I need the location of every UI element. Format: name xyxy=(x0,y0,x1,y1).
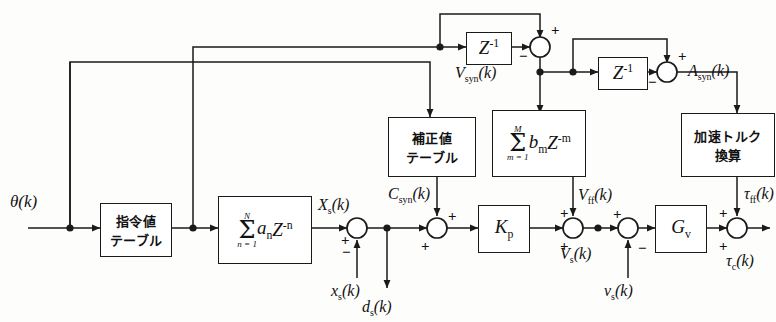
fir-b-z-exponent: -m xyxy=(558,132,571,145)
signal-label-vff: Vff(k) xyxy=(578,186,612,206)
delay-right-base: Z xyxy=(613,63,624,84)
sign-sum-asyn-plus: + xyxy=(678,48,687,65)
block-fir-a[interactable]: N Σ n = 1 an Z-n xyxy=(218,196,312,264)
sum-junction-asyn xyxy=(657,62,677,82)
fir-a-z-base: Z xyxy=(272,219,283,240)
sign-sum-tff-plus-top: + xyxy=(719,205,728,222)
ds-out-base: d xyxy=(362,298,370,315)
block-delay-right[interactable]: Z-1 xyxy=(598,57,648,90)
delay-left-base: Z xyxy=(479,38,490,59)
fir-a-expression: N Σ n = 1 an Z-n xyxy=(237,212,292,249)
signal-label-theta: θ(k) xyxy=(10,192,37,212)
xs-out-arg: (k) xyxy=(332,196,350,213)
tc-arg: (k) xyxy=(736,252,754,269)
signal-label-tc: τc(k) xyxy=(726,252,754,272)
fir-a-coefficient: an xyxy=(257,217,272,243)
kp-sub: p xyxy=(507,228,513,241)
fir-b-coefficient-base: b xyxy=(529,131,539,152)
signal-label-xs-out: Xs(k) xyxy=(318,196,349,216)
gv-base: G xyxy=(671,216,685,237)
fir-a-sum-lower: n = 1 xyxy=(237,240,257,249)
vs-fb-arg: (k) xyxy=(615,282,633,299)
signal-label-vs-feedback: vs(k) xyxy=(604,282,633,302)
signal-label-xs-feedback: xs(k) xyxy=(331,282,360,302)
command-table-line2: テーブル xyxy=(110,230,163,249)
gv-expression: Gv xyxy=(671,216,691,242)
sign-sum-vff-plus-bot: + xyxy=(560,238,569,255)
sign-sum-xs-minus: − xyxy=(342,244,351,261)
sign-sum-vsyn-minus: − xyxy=(519,48,528,65)
fir-a-coefficient-base: a xyxy=(257,217,267,238)
fir-b-z-base: Z xyxy=(547,133,558,154)
sign-sum-vs-minus: − xyxy=(638,240,647,257)
block-kp-gain[interactable]: Kp xyxy=(478,205,530,253)
asyn-base: A xyxy=(688,62,698,79)
accel-torque-line2: 換算 xyxy=(715,145,742,164)
theta-arg: (k) xyxy=(18,192,37,211)
vff-arg: (k) xyxy=(594,186,612,203)
sign-sum-vsyn-plus: + xyxy=(551,22,560,39)
correction-table-line2: テーブル xyxy=(406,147,459,166)
fir-a-sigma: N Σ n = 1 xyxy=(237,212,257,249)
fir-a-z-term: Z-n xyxy=(272,219,292,241)
delay-right-exponent: -1 xyxy=(623,62,633,75)
fir-b-coefficient-sub: m xyxy=(538,142,547,155)
asyn-arg: (k) xyxy=(712,62,730,79)
sign-sum-csyn-plus-left: + xyxy=(421,238,430,255)
block-correction-table[interactable]: 補正値 テーブル xyxy=(388,117,476,177)
junction-vsyn-out xyxy=(536,68,543,75)
sign-sum-asyn-minus: − xyxy=(648,74,657,91)
xs-fb-arg: (k) xyxy=(342,282,360,299)
sign-sum-csyn-plus-top: + xyxy=(448,208,457,225)
junction-command-out xyxy=(189,224,196,231)
xs-out-base: X xyxy=(318,196,328,213)
vff-base: V xyxy=(578,186,588,203)
csyn-sub: syn xyxy=(399,194,413,205)
signal-label-tff: τff(k) xyxy=(744,185,774,205)
sum-junction-vsyn xyxy=(530,37,550,57)
vsyn-arg: (k) xyxy=(479,64,497,81)
sum-junction-csyn xyxy=(427,218,447,238)
vsyn-base: V xyxy=(455,64,465,81)
block-accel-torque-conversion[interactable]: 加速トルク 換算 xyxy=(681,113,775,177)
accel-torque-line1: 加速トルク xyxy=(694,126,762,145)
sum-junction-tff xyxy=(727,218,747,238)
sign-sum-tff-plus-bot: + xyxy=(719,238,728,255)
block-gv-gain[interactable]: Gv xyxy=(655,205,707,253)
block-command-table[interactable]: 指令値 テーブル xyxy=(100,203,172,257)
csyn-arg: (k) xyxy=(412,185,430,202)
gv-sub: v xyxy=(685,228,691,241)
correction-table-line1: 補正値 xyxy=(412,128,453,147)
kp-base: K xyxy=(495,216,508,237)
fir-b-sum-lower: m = 1 xyxy=(507,153,529,162)
ds-out-arg: (k) xyxy=(374,298,392,315)
block-delay-left[interactable]: Z-1 xyxy=(466,32,512,65)
delay-left-exponent: -1 xyxy=(489,37,499,50)
fir-a-z-exponent: -n xyxy=(283,219,293,232)
fir-b-z-term: Z-m xyxy=(547,132,571,154)
sign-sum-vff-plus-top: + xyxy=(560,205,569,222)
signal-label-ds-out: ds(k) xyxy=(362,298,392,318)
tff-arg: (k) xyxy=(756,185,774,202)
junction-theta xyxy=(66,224,73,231)
signal-label-vsyn: Vsyn(k) xyxy=(455,64,496,84)
delay-right-expression: Z-1 xyxy=(613,62,633,84)
delay-left-expression: Z-1 xyxy=(479,37,499,59)
signal-label-csyn: Csyn(k) xyxy=(388,185,430,205)
sum-junction-xs xyxy=(347,218,367,238)
asyn-sub: syn xyxy=(698,71,712,82)
fir-b-expression: M Σ m = 1 bm Z-m xyxy=(507,125,571,162)
junction-ds-branch xyxy=(383,224,390,231)
junction-vff-out xyxy=(594,224,601,231)
signal-label-asyn: Asyn(k) xyxy=(688,62,729,82)
junction-vsyn-tap xyxy=(569,68,576,75)
command-table-line1: 指令値 xyxy=(116,211,157,230)
csyn-base: C xyxy=(388,185,399,202)
vs-arg: (k) xyxy=(574,245,592,262)
block-fir-b[interactable]: M Σ m = 1 bm Z-m xyxy=(492,110,586,177)
block-diagram-canvas: 指令値 テーブル N Σ n = 1 an Z-n 補正値 テーブル M Σ m… xyxy=(0,0,776,322)
kp-expression: Kp xyxy=(495,216,514,242)
junction-delayleft-in xyxy=(436,43,443,50)
vsyn-sub: syn xyxy=(465,73,479,84)
sign-sum-vs-plus: + xyxy=(613,206,622,223)
